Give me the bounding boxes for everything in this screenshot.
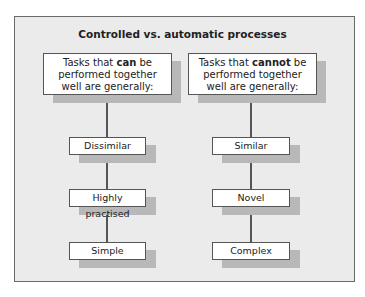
connector-left: [106, 95, 108, 245]
header-box-can: Tasks that can be performed together wel…: [43, 53, 172, 95]
header-box-cannot: Tasks that cannot be performed together …: [188, 53, 317, 95]
diagram-title: Controlled vs. automatic processes: [0, 28, 365, 40]
item-novel: Novel: [212, 189, 290, 207]
item-complex: Complex: [212, 242, 290, 260]
item-similar: Similar: [212, 137, 290, 155]
item-simple: Simple: [69, 242, 146, 260]
item-dissimilar: Dissimilar: [69, 137, 146, 155]
connector-right: [250, 95, 252, 245]
item-highly-practised: Highly practised: [69, 189, 146, 207]
